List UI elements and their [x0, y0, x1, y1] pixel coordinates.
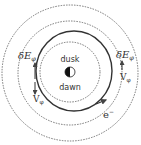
dusk-label: dusk	[61, 55, 80, 64]
orbit-diagram: dusk dawn δEφ δEφ Vφ Vφ e−	[0, 0, 141, 145]
velocity-right-label: Vφ	[119, 72, 131, 84]
electron-label: e−	[103, 108, 114, 120]
central-body-icon	[65, 67, 75, 77]
velocity-left-label: Vφ	[32, 94, 44, 106]
efield-right-label: δEφ	[116, 49, 134, 62]
dawn-label: dawn	[59, 83, 81, 92]
efield-left-label: δEφ	[18, 50, 36, 63]
